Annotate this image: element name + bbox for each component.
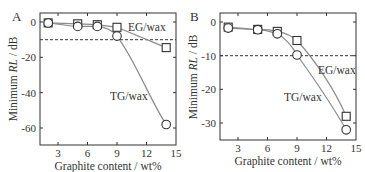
panel-b-tg-markers <box>224 24 351 134</box>
y-tick-label: -20 <box>201 83 216 95</box>
y-tick-label: -10 <box>201 50 216 62</box>
panel-b: B 0 -10 -20 -30 3 6 9 12 15 Graphite con… <box>187 9 362 168</box>
x-tick-label: 15 <box>171 147 183 159</box>
panel-b-plot-frame <box>220 13 356 140</box>
y-tick-label: -60 <box>21 122 36 134</box>
x-tick-label: 9 <box>294 142 300 154</box>
panel-b-tg-label: TG/wax <box>284 91 322 103</box>
panel-b-y-ticks <box>220 13 356 140</box>
panel-b-tg-curve <box>228 28 346 130</box>
panel-b-x-axis-label: Graphite content / wt% <box>235 155 342 168</box>
panel-a-tg-curve <box>48 23 166 125</box>
panel-b-eg-label: EG/wax <box>318 64 356 76</box>
panel-b-y-axis-label: Minimum RL / dB <box>187 34 199 119</box>
panel-a-y-axis-label: Minimum RL / dB <box>7 36 19 121</box>
figure: A 0 -20 -40 -60 3 6 9 12 15 Graphi <box>0 0 365 172</box>
panel-a: A 0 -20 -40 -60 3 6 9 12 15 Graphi <box>7 9 182 172</box>
y-tick-label: 0 <box>31 16 37 28</box>
x-tick-label: 12 <box>141 147 152 159</box>
panel-b-y-tick-labels: 0 -10 -20 -30 <box>201 16 216 129</box>
panel-a-y-tick-labels: 0 -20 -40 -60 <box>21 16 36 134</box>
y-tick-label: -40 <box>21 87 36 99</box>
panel-a-tg-label: TG/wax <box>110 90 148 102</box>
panel-a-letter: A <box>12 9 22 24</box>
y-tick-label: -30 <box>201 117 216 129</box>
panel-a-x-axis-label: Graphite content / wt% <box>55 160 162 172</box>
x-tick-label: 12 <box>321 142 332 154</box>
y-tick-label: -20 <box>21 51 36 63</box>
panel-a-tg-markers <box>44 19 171 129</box>
y-tick-label: 0 <box>211 16 217 28</box>
panel-a-eg-label: EG/wax <box>128 21 166 33</box>
x-tick-label: 6 <box>265 142 271 154</box>
x-tick-label: 3 <box>235 142 241 154</box>
x-tick-label: 3 <box>55 147 61 159</box>
x-tick-label: 15 <box>351 142 363 154</box>
x-tick-label: 6 <box>85 147 91 159</box>
panel-b-letter: B <box>190 9 199 24</box>
panel-a-x-tick-labels: 3 6 9 12 15 <box>55 147 182 159</box>
x-tick-label: 9 <box>114 147 120 159</box>
panel-b-x-tick-labels: 3 6 9 12 15 <box>235 142 362 154</box>
